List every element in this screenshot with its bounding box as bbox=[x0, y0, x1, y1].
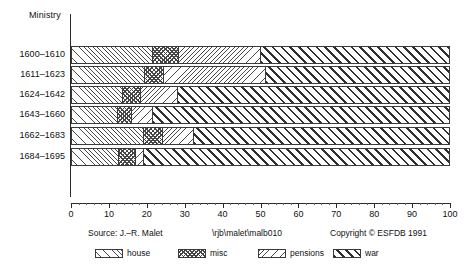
x-tick-label: 0 bbox=[68, 209, 73, 219]
x-tick-major bbox=[109, 203, 110, 208]
x-tick-minor bbox=[359, 203, 360, 205]
x-tick-minor bbox=[367, 203, 368, 205]
x-tick-label: 50 bbox=[255, 209, 265, 219]
x-tick-label: 70 bbox=[331, 209, 341, 219]
legend-label: house bbox=[127, 248, 150, 258]
x-tick-major bbox=[450, 203, 451, 208]
bar-row-label: 1662–1683 bbox=[20, 130, 66, 140]
legend-label: pensions bbox=[290, 248, 324, 258]
x-tick-minor bbox=[329, 203, 330, 205]
x-tick-major bbox=[412, 203, 413, 208]
x-tick-minor bbox=[420, 203, 421, 205]
x-tick-major bbox=[223, 203, 224, 208]
chart-figure: Ministry 1600–16101611–16231624–16421643… bbox=[0, 0, 475, 269]
legend-swatch-house bbox=[95, 249, 123, 258]
x-tick-label: 10 bbox=[104, 209, 114, 219]
bar-segment-misc bbox=[117, 106, 131, 124]
x-tick-label: 100 bbox=[442, 209, 457, 219]
bar-segment-war bbox=[265, 66, 450, 84]
x-tick-label: 90 bbox=[407, 209, 417, 219]
y-axis-title: Ministry bbox=[29, 10, 61, 20]
x-tick-minor bbox=[435, 203, 436, 205]
x-tick-minor bbox=[162, 203, 163, 205]
legend-swatch-misc bbox=[178, 249, 206, 258]
bar-segment-pensions bbox=[135, 148, 143, 166]
bar-row: 1611–1623 bbox=[71, 66, 450, 84]
bar-row: 1624–1642 bbox=[71, 86, 450, 104]
bar-segment-house bbox=[71, 148, 118, 166]
bar-segment-pensions bbox=[162, 127, 193, 145]
x-tick-minor bbox=[101, 203, 102, 205]
x-tick-minor bbox=[382, 203, 383, 205]
legend-swatch-war bbox=[333, 249, 361, 258]
x-tick-minor bbox=[253, 203, 254, 205]
bar-segment-pensions bbox=[140, 86, 177, 104]
bar-segment-house bbox=[71, 106, 117, 124]
x-tick-minor bbox=[116, 203, 117, 205]
x-tick-minor bbox=[397, 203, 398, 205]
footer: Source: J.–R. Malet \rjb\malet\malb010 C… bbox=[0, 228, 475, 240]
x-tick-major bbox=[374, 203, 375, 208]
x-tick-minor bbox=[283, 203, 284, 205]
x-tick-minor bbox=[132, 203, 133, 205]
bar-segment-pensions bbox=[178, 46, 260, 64]
legend-label: misc bbox=[210, 248, 227, 258]
bar-segment-house bbox=[71, 66, 144, 84]
bar-segment-war bbox=[177, 86, 450, 104]
bar-row: 1600–1610 bbox=[71, 46, 450, 64]
footer-copyright: Copyright © ESFDB 1991 bbox=[330, 228, 427, 238]
x-tick-minor bbox=[215, 203, 216, 205]
bar-segment-pensions bbox=[131, 106, 152, 124]
legend-item-misc[interactable]: misc bbox=[178, 248, 227, 258]
x-tick-minor bbox=[124, 203, 125, 205]
x-tick-minor bbox=[321, 203, 322, 205]
footer-source: Source: J.–R. Malet bbox=[88, 228, 163, 238]
bar-segment-war bbox=[152, 106, 450, 124]
x-tick-minor bbox=[344, 203, 345, 205]
x-tick-minor bbox=[314, 203, 315, 205]
x-tick-major bbox=[71, 203, 72, 208]
x-tick-minor bbox=[389, 203, 390, 205]
bar-segment-house bbox=[71, 86, 122, 104]
x-tick-minor bbox=[306, 203, 307, 205]
legend-item-pensions[interactable]: pensions bbox=[258, 248, 324, 258]
x-tick-label: 40 bbox=[218, 209, 228, 219]
footer-file-path: \rjb\malet\malb010 bbox=[212, 228, 282, 238]
x-tick-major bbox=[147, 203, 148, 208]
bar-segment-misc bbox=[122, 86, 140, 104]
bar-segment-war bbox=[143, 148, 450, 166]
x-tick-minor bbox=[94, 203, 95, 205]
bar-row-label: 1611–1623 bbox=[20, 69, 65, 79]
legend-swatch-pensions bbox=[258, 249, 286, 258]
x-tick-minor bbox=[276, 203, 277, 205]
x-tick-minor bbox=[351, 203, 352, 205]
x-tick-minor bbox=[427, 203, 428, 205]
x-tick-label: 20 bbox=[142, 209, 152, 219]
x-tick-major bbox=[261, 203, 262, 208]
bar-segment-pensions bbox=[163, 66, 265, 84]
x-tick-label: 30 bbox=[180, 209, 190, 219]
x-tick-label: 60 bbox=[293, 209, 303, 219]
bar-segment-misc bbox=[143, 127, 162, 145]
bar-segment-misc bbox=[152, 46, 178, 64]
x-tick-minor bbox=[207, 203, 208, 205]
bar-row: 1643–1660 bbox=[71, 106, 450, 124]
x-tick-minor bbox=[238, 203, 239, 205]
bar-row: 1662–1683 bbox=[71, 127, 450, 145]
bar-row-label: 1600–1610 bbox=[20, 49, 66, 59]
legend-item-war[interactable]: war bbox=[333, 248, 379, 258]
x-tick-major bbox=[298, 203, 299, 208]
x-tick-minor bbox=[192, 203, 193, 205]
bar-segment-house bbox=[71, 127, 143, 145]
legend-item-house[interactable]: house bbox=[95, 248, 150, 258]
x-tick-minor bbox=[170, 203, 171, 205]
plot-area: 1600–16101611–16231624–16421643–16601662… bbox=[71, 14, 450, 197]
x-tick-minor bbox=[200, 203, 201, 205]
bar-row-label: 1643–1660 bbox=[20, 109, 66, 119]
x-tick-major bbox=[336, 203, 337, 208]
x-tick-minor bbox=[230, 203, 231, 205]
x-tick-minor bbox=[291, 203, 292, 205]
x-tick-minor bbox=[405, 203, 406, 205]
x-tick-major bbox=[185, 203, 186, 208]
x-tick-minor bbox=[177, 203, 178, 205]
